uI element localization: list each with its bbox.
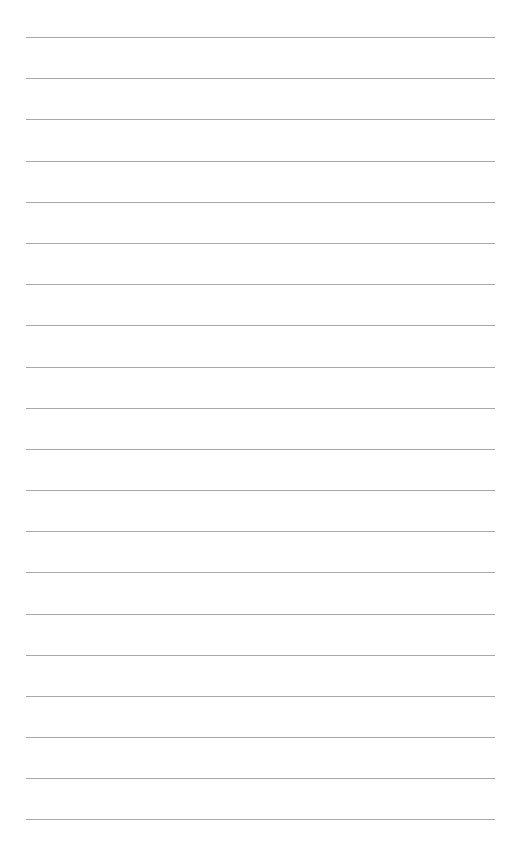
ruled-line: [26, 572, 495, 573]
ruled-line: [26, 490, 495, 491]
ruled-line: [26, 737, 495, 738]
ruled-line: [26, 367, 495, 368]
ruled-line: [26, 819, 495, 820]
ruled-line: [26, 614, 495, 615]
ruled-line: [26, 284, 495, 285]
ruled-line: [26, 778, 495, 779]
ruled-line: [26, 78, 495, 79]
ruled-line: [26, 161, 495, 162]
lined-paper-page: [0, 0, 521, 859]
ruled-line: [26, 243, 495, 244]
ruled-line: [26, 119, 495, 120]
ruled-line: [26, 202, 495, 203]
ruled-line: [26, 325, 495, 326]
ruled-line: [26, 37, 495, 38]
ruled-line: [26, 655, 495, 656]
ruled-line: [26, 449, 495, 450]
ruled-line: [26, 531, 495, 532]
ruled-line: [26, 696, 495, 697]
ruled-line: [26, 408, 495, 409]
